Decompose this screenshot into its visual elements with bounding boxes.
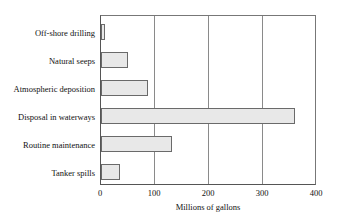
bar-disposal-in-waterways — [101, 108, 295, 124]
category-label-atmospheric-deposition: Atmospheric deposition — [0, 84, 95, 94]
category-label-routine-maintenance: Routine maintenance — [0, 140, 95, 150]
bar-chart: Off-shore drilling Natural seeps Atmosph… — [0, 0, 340, 223]
xtick-label-100: 100 — [134, 188, 174, 198]
bar-natural-seeps — [101, 52, 128, 68]
category-label-disposal-in-waterways: Disposal in waterways — [0, 112, 95, 122]
category-label-tanker-spills: Tanker spills — [0, 168, 95, 178]
bar-routine-maintenance — [101, 136, 172, 152]
bar-tanker-spills — [101, 164, 120, 180]
xtick-label-200: 200 — [188, 188, 228, 198]
bar-atmospheric-deposition — [101, 80, 148, 96]
category-label-off-shore-drilling: Off-shore drilling — [0, 28, 95, 38]
category-label-natural-seeps: Natural seeps — [0, 56, 95, 66]
x-axis-title: Millions of gallons — [100, 202, 316, 212]
xtick-label-300: 300 — [242, 188, 282, 198]
gridline-100 — [154, 16, 155, 184]
xtick-label-0: 0 — [80, 188, 120, 198]
plot-area — [100, 15, 316, 185]
xtick-label-400: 400 — [296, 188, 336, 198]
gridline-300 — [262, 16, 263, 184]
bar-off-shore-drilling — [101, 24, 105, 40]
gridline-200 — [208, 16, 209, 184]
